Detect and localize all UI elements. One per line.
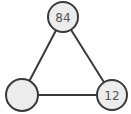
node-bottom-left-circle: [6, 79, 38, 111]
node-bottom-right-label: 12: [104, 89, 119, 103]
node-bottom-right: 12: [97, 80, 127, 110]
node-top: 84: [48, 2, 78, 32]
node-bottom-left: [6, 79, 38, 111]
triangle-graph: 84 12: [0, 0, 131, 114]
node-top-label: 84: [55, 11, 70, 25]
